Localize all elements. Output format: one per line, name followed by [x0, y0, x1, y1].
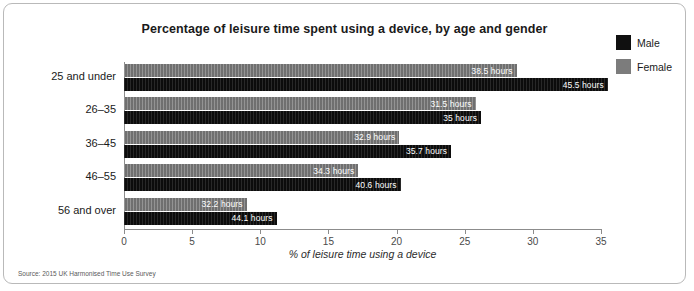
- bar-female[interactable]: 32.2 hours: [124, 198, 247, 211]
- bar-value-label: 44.1 hours: [231, 213, 276, 223]
- legend-item-male[interactable]: Male: [616, 35, 692, 50]
- legend-label-female: Female: [637, 61, 672, 73]
- bar-value-label: 34.3 hours: [313, 166, 358, 176]
- bar-group: 32.9 hours35.7 hours: [124, 129, 601, 162]
- x-axis-tick: [124, 229, 125, 234]
- bar-female[interactable]: 31.5 hours: [124, 97, 476, 110]
- x-axis-tick-label: 0: [121, 236, 127, 247]
- x-axis-tick: [192, 229, 193, 234]
- category-label: 36–45: [85, 137, 116, 149]
- x-axis-tick-label: 20: [391, 236, 402, 247]
- x-axis-tick-label: 5: [189, 236, 195, 247]
- plot-area: 0510152025303538.5 hours45.5 hours31.5 h…: [124, 62, 601, 229]
- x-axis-tick: [533, 229, 534, 234]
- bar-value-label: 38.5 hours: [471, 66, 516, 76]
- x-axis-tick-label: 35: [595, 236, 606, 247]
- x-axis-line: [124, 229, 602, 230]
- category-axis-labels: 25 and under26–3536–4546–5556 and over: [4, 62, 116, 229]
- legend-item-female[interactable]: Female: [616, 59, 692, 74]
- bar-group: 32.2 hours44.1 hours: [124, 196, 601, 229]
- x-axis-title: % of leisure time using a device: [124, 248, 601, 260]
- bar-female[interactable]: 34.3 hours: [124, 164, 358, 177]
- x-axis-tick-label: 25: [459, 236, 470, 247]
- x-axis-tick-label: 15: [323, 236, 334, 247]
- category-label: 25 and under: [51, 70, 116, 82]
- x-axis-tick: [328, 229, 329, 234]
- category-label: 26–35: [85, 103, 116, 115]
- bar-female[interactable]: 32.9 hours: [124, 131, 399, 144]
- bar-male[interactable]: 40.6 hours: [124, 178, 401, 191]
- bar-male[interactable]: 35 hours: [124, 111, 481, 124]
- x-axis-tick: [260, 229, 261, 234]
- bar-male[interactable]: 45.5 hours: [124, 78, 608, 91]
- chart-title: Percentage of leisure time spent using a…: [4, 22, 685, 36]
- bar-group: 31.5 hours35 hours: [124, 95, 601, 128]
- legend-label-male: Male: [637, 37, 660, 49]
- x-axis-tick: [397, 229, 398, 234]
- chart-figure: Percentage of leisure time spent using a…: [3, 3, 686, 284]
- bar-male[interactable]: 35.7 hours: [124, 145, 451, 158]
- bar-group: 38.5 hours45.5 hours: [124, 62, 601, 95]
- legend-swatch-male: [616, 35, 631, 50]
- bar-value-label: 32.2 hours: [201, 199, 246, 209]
- source-note: Source: 2015 UK Harmonised Time Use Surv…: [18, 270, 156, 277]
- x-axis-tick: [465, 229, 466, 234]
- category-label: 46–55: [85, 170, 116, 182]
- x-axis-tick-label: 30: [527, 236, 538, 247]
- bar-value-label: 45.5 hours: [563, 80, 608, 90]
- category-label: 56 and over: [58, 204, 116, 216]
- bar-group: 34.3 hours40.6 hours: [124, 162, 601, 195]
- bar-value-label: 31.5 hours: [430, 99, 475, 109]
- bar-value-label: 32.9 hours: [354, 132, 399, 142]
- chart-legend: Male Female: [616, 35, 692, 83]
- bar-value-label: 40.6 hours: [355, 180, 400, 190]
- x-axis-tick: [601, 229, 602, 234]
- bar-female[interactable]: 38.5 hours: [124, 64, 517, 77]
- x-axis-tick-label: 10: [255, 236, 266, 247]
- bar-value-label: 35 hours: [443, 113, 481, 123]
- bar-male[interactable]: 44.1 hours: [124, 212, 277, 225]
- legend-swatch-female: [616, 59, 631, 74]
- bar-value-label: 35.7 hours: [406, 146, 451, 156]
